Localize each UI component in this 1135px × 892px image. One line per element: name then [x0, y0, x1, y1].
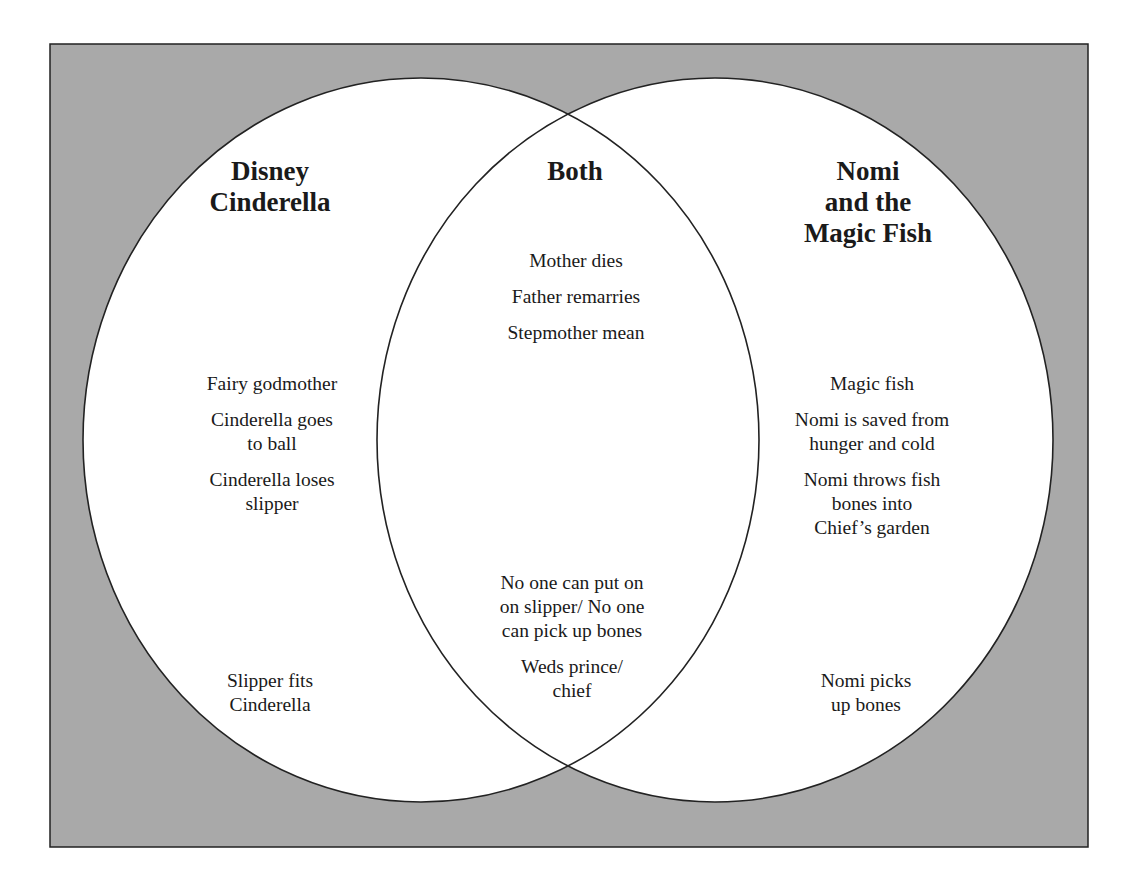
list-item: Fairy godmother: [207, 372, 338, 396]
both-items-bottom: No one can put on on slipper/ No one can…: [500, 571, 645, 715]
right-items-top: Magic fish Nomi is saved from hunger and…: [795, 372, 949, 552]
item-line: Fairy godmother: [207, 372, 338, 396]
list-item: No one can put on on slipper/ No one can…: [500, 571, 645, 643]
heading-line: Magic Fish: [804, 218, 932, 249]
item-line: Weds prince/: [500, 655, 645, 679]
item-line: Father remarries: [507, 285, 644, 309]
item-line: chief: [500, 679, 645, 703]
heading-line: Nomi: [804, 156, 932, 187]
list-item: Stepmother mean: [507, 321, 644, 345]
left-items-bottom: Slipper fits Cinderella: [227, 669, 313, 729]
item-line: on slipper/ No one: [500, 595, 645, 619]
list-item: Father remarries: [507, 285, 644, 309]
list-item: Magic fish: [795, 372, 949, 396]
left-items-top: Fairy godmother Cinderella goes to ball …: [207, 372, 338, 528]
left-set-heading: Disney Cinderella: [210, 156, 331, 218]
both-set-heading: Both: [547, 156, 603, 187]
item-line: Cinderella loses: [207, 468, 338, 492]
heading-line: Disney: [210, 156, 331, 187]
list-item: Nomi is saved from hunger and cold: [795, 408, 949, 456]
item-line: Nomi is saved from: [795, 408, 949, 432]
heading-line: Cinderella: [210, 187, 331, 218]
item-line: Nomi throws fish: [795, 468, 949, 492]
item-line: Cinderella: [227, 693, 313, 717]
list-item: Slipper fits Cinderella: [227, 669, 313, 717]
item-line: to ball: [207, 432, 338, 456]
list-item: Cinderella goes to ball: [207, 408, 338, 456]
item-line: Magic fish: [795, 372, 949, 396]
list-item: Mother dies: [507, 249, 644, 273]
item-line: bones into: [795, 492, 949, 516]
list-item: Nomi throws fish bones into Chief’s gard…: [795, 468, 949, 540]
heading-line: and the: [804, 187, 932, 218]
right-circle-fill: [377, 78, 1053, 802]
item-line: hunger and cold: [795, 432, 949, 456]
item-line: No one can put on: [500, 571, 645, 595]
venn-diagram: [0, 0, 1135, 892]
list-item: Nomi picks up bones: [821, 669, 911, 717]
item-line: Slipper fits: [227, 669, 313, 693]
list-item: Cinderella loses slipper: [207, 468, 338, 516]
item-line: Stepmother mean: [507, 321, 644, 345]
item-line: Cinderella goes: [207, 408, 338, 432]
item-line: up bones: [821, 693, 911, 717]
right-set-heading: Nomi and the Magic Fish: [804, 156, 932, 249]
item-line: Chief’s garden: [795, 516, 949, 540]
list-item: Weds prince/ chief: [500, 655, 645, 703]
item-line: slipper: [207, 492, 338, 516]
item-line: Nomi picks: [821, 669, 911, 693]
both-items-top: Mother dies Father remarries Stepmother …: [507, 249, 644, 357]
item-line: can pick up bones: [500, 619, 645, 643]
heading-line: Both: [547, 156, 603, 187]
item-line: Mother dies: [507, 249, 644, 273]
right-items-bottom: Nomi picks up bones: [821, 669, 911, 729]
